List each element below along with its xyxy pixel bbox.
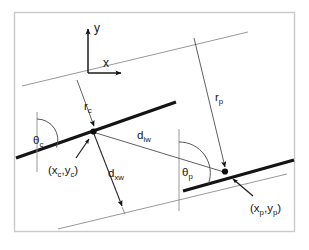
y-axis-label: y <box>94 21 100 35</box>
point-c-marker <box>90 128 96 134</box>
geometry-diagram-svg: y x rc rp θc θp dlw dxw (xc,yc) (xp,yp) <box>0 0 309 250</box>
point-p-marker <box>222 168 228 174</box>
x-axis-label: x <box>103 56 109 70</box>
figure-frame <box>15 13 295 232</box>
figure-root: y x rc rp θc θp dlw dxw (xc,yc) (xp,yp) <box>0 0 309 250</box>
